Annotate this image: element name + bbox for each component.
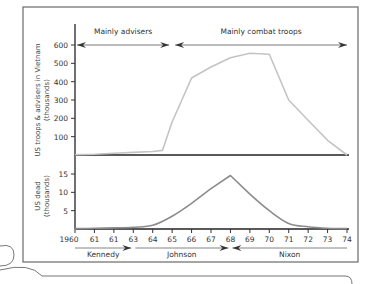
y-tick-label: 600 (54, 41, 69, 50)
y-tick-label: 500 (54, 59, 69, 68)
y-tick-label: 5 (63, 207, 68, 216)
troops-series-line (75, 53, 347, 155)
x-tick-label: 71 (284, 235, 294, 244)
annotation-label: Mainly advisers (94, 27, 152, 36)
y-tick-label: 10 (58, 188, 68, 197)
president-label: Kennedy (87, 250, 120, 259)
x-tick-label: 1960 (59, 235, 78, 244)
annotation-label: Mainly combat troops (220, 27, 301, 36)
x-tick-label: 63 (129, 235, 139, 244)
y-tick-label: 15 (58, 170, 68, 179)
troops-axis-label: US troops & advisers in Vietnam (34, 43, 42, 156)
x-tick-label: 64 (148, 235, 158, 244)
vietnam-chart: US troops & advisers in Vietnam (thousan… (0, 0, 375, 284)
x-tick-label: 67 (206, 235, 216, 244)
dead-axis-sublabel: (thousands) (43, 175, 51, 217)
x-tick-label: 65 (167, 235, 177, 244)
y-tick-label: 400 (54, 78, 69, 87)
dead-series-line (75, 176, 347, 229)
x-tick-label: 73 (323, 235, 333, 244)
president-label: Johnson (166, 250, 197, 259)
dead-axis-label: US dead (34, 181, 42, 210)
x-tick-label: 68 (226, 235, 236, 244)
troops-axis-sublabel: (thousands) (43, 79, 51, 121)
x-tick-label: 66 (187, 235, 197, 244)
x-tick-label: 70 (265, 235, 275, 244)
x-tick-label: 61 (109, 235, 119, 244)
x-tick-label: 61 (90, 235, 100, 244)
x-tick-label: 74 (342, 235, 352, 244)
y-tick-label: 300 (54, 96, 69, 105)
x-tick-label: 69 (245, 235, 255, 244)
x-tick-label: 72 (303, 235, 313, 244)
decorative-tab-outline (0, 267, 352, 284)
y-tick-label: 100 (54, 133, 69, 142)
president-label: Nixon (279, 250, 300, 259)
decorative-bubble (0, 245, 14, 266)
y-tick-label: 200 (54, 114, 69, 123)
